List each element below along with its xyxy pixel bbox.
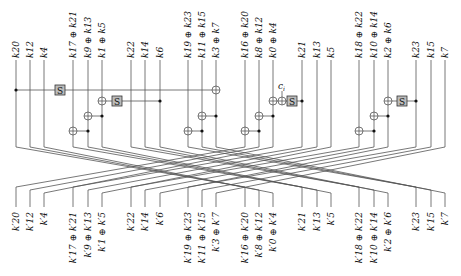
bottom-label: k′10 ⊕ k′14: [369, 212, 379, 263]
junction-dot: [257, 129, 260, 132]
top-label: k13: [312, 41, 322, 58]
top-label: k0 ⊕ k4: [268, 22, 278, 58]
bottom-label: k′15: [426, 212, 436, 231]
top-labels: k20k12k4k17 ⊕ k21k9 ⊕ k13k1 ⊕ k5k22k14k6…: [11, 11, 450, 58]
top-label: k8 ⊕ k12: [254, 16, 264, 58]
xor-icon: [184, 127, 192, 135]
svg-text:S: S: [289, 97, 295, 107]
bottom-label: k′4: [39, 212, 49, 225]
constant-label: ci: [278, 81, 285, 92]
top-label: k20: [11, 41, 21, 58]
bottom-labels: k′20k′12k′4k′17 ⊕ k′21k′9 ⊕ k′13k′1 ⊕ k′…: [11, 212, 450, 263]
bottom-label: k′14: [140, 212, 150, 231]
bottom-label: k′19 ⊕ k′23: [183, 212, 193, 263]
top-label: k18 ⊕ k22: [354, 11, 364, 58]
bottom-label: k′5: [326, 212, 336, 225]
junction-dot: [14, 88, 17, 91]
bottom-label: k′22: [126, 212, 136, 231]
top-label: k2 ⊕ k6: [383, 22, 393, 58]
bottom-label: k′7: [440, 212, 450, 225]
top-label: k6: [155, 47, 165, 58]
xor-icon: [98, 97, 106, 105]
junction-dot: [158, 99, 161, 102]
top-label: k3 ⊕ k7: [211, 22, 221, 58]
top-label: k16 ⊕ k20: [240, 11, 250, 58]
bottom-label: k′0 ⊕ k′4: [268, 212, 278, 252]
xor-icon: [212, 86, 220, 94]
bottom-label: k′16 ⊕ k′20: [240, 212, 250, 263]
bottom-label: k′18 ⊕ k′22: [354, 212, 364, 263]
top-label: k19 ⊕ k23: [183, 11, 193, 58]
bottom-label: k′11 ⊕ k′15: [197, 212, 207, 263]
top-label: k11 ⊕ k15: [197, 11, 207, 58]
xor-icon: [355, 127, 363, 135]
bottom-label: k′9 ⊕ k′13: [83, 212, 93, 258]
top-label: k21: [297, 41, 307, 58]
top-label: k10 ⊕ k14: [369, 11, 379, 58]
junction-dot: [386, 114, 389, 117]
xor-icon: [269, 97, 277, 105]
top-label: k22: [126, 41, 136, 58]
bottom-label: k′2 ⊕ k′6: [383, 212, 393, 252]
bottom-label: k′1 ⊕ k′5: [97, 212, 107, 252]
junction-dot: [100, 114, 103, 117]
xor-icon: [255, 112, 263, 120]
bottom-label: k′20: [11, 212, 21, 231]
bottom-label: k′12: [25, 212, 35, 231]
sbox: S: [112, 96, 122, 107]
top-label: k9 ⊕ k13: [83, 16, 93, 58]
junction-dot: [414, 99, 417, 102]
sbox: S: [55, 85, 65, 96]
bottom-label: k′13: [312, 212, 322, 231]
junction-dot: [372, 129, 375, 132]
junction-dot: [86, 129, 89, 132]
junction-dot: [200, 129, 203, 132]
key-schedule-diagram: SSSciS k20k12k4k17 ⊕ k21k9 ⊕ k13k1 ⊕ k5k…: [0, 0, 461, 276]
top-label: k4: [39, 47, 49, 58]
xor-icon: [84, 112, 92, 120]
top-label: k7: [440, 47, 450, 58]
top-label: k5: [326, 47, 336, 58]
top-label: k12: [25, 41, 35, 58]
sbox: S: [397, 96, 407, 107]
bottom-label: k′3 ⊕ k′7: [211, 212, 221, 252]
wires: [16, 60, 445, 207]
xor-icon: [69, 127, 77, 135]
top-label: k1 ⊕ k5: [97, 22, 107, 58]
xor-icon: [198, 112, 206, 120]
top-label: k23: [411, 41, 421, 58]
top-label: k17 ⊕ k21: [68, 11, 78, 58]
svg-text:S: S: [114, 97, 120, 107]
xor-icon: [278, 97, 286, 105]
bottom-label: k′21: [297, 212, 307, 231]
bottom-label: k′8 ⊕ k′12: [254, 212, 264, 258]
xor-icon: [384, 97, 392, 105]
top-label: k15: [426, 41, 436, 58]
xor-icon: [241, 127, 249, 135]
junction-dot: [300, 99, 303, 102]
sbox: S: [287, 96, 297, 107]
junction-dot: [271, 114, 274, 117]
svg-text:S: S: [57, 86, 63, 96]
svg-text:S: S: [399, 97, 405, 107]
bottom-label: k′6: [155, 212, 165, 225]
junction-dot: [214, 114, 217, 117]
bottom-label: k′17 ⊕ k′21: [68, 212, 78, 263]
top-label: k14: [140, 41, 150, 58]
xor-icon: [370, 112, 378, 120]
bottom-label: k′23: [411, 212, 421, 231]
